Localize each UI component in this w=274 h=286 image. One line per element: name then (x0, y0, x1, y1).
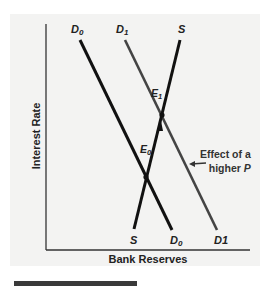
label-e0: E0 (140, 143, 152, 157)
footer-bar (14, 281, 137, 286)
label-d1-top: D1 (116, 23, 129, 37)
annotation-line-1: Effect of a (200, 147, 251, 161)
arrow-left-icon (189, 161, 195, 167)
x-axis-label: Bank Reserves (46, 253, 250, 265)
demand-curve-d1 (125, 40, 217, 230)
label-d0-bottom: D0 (170, 234, 183, 248)
annotation-text: Effect of a higher P (200, 147, 251, 175)
label-e1: E1 (151, 87, 162, 101)
label-d0-top: D0 (71, 23, 84, 37)
y-axis-label: Interest Rate (30, 86, 42, 186)
annotation-line-2: higher P (200, 161, 251, 175)
label-s-bottom: S (130, 234, 138, 246)
equilibrium-point-e0 (143, 174, 148, 179)
label-d1-bottom: D1 (214, 234, 228, 246)
label-s-top: S (178, 23, 186, 35)
equilibrium-point-e1 (159, 112, 164, 117)
